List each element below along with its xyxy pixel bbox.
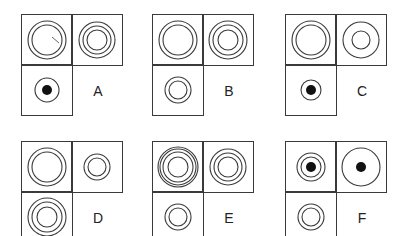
concentric-circles-icon [286, 192, 336, 236]
cell-top-left [21, 14, 73, 66]
concentric-circles-icon [153, 142, 203, 192]
cell-top-right [71, 14, 123, 66]
option-panel-c[interactable]: C [285, 14, 386, 115]
cell-top-left [21, 141, 73, 193]
cell-top-right [335, 141, 387, 193]
option-label: C [337, 83, 387, 99]
concentric-circles-icon [336, 15, 386, 65]
option-label: D [73, 210, 123, 226]
cell-bottom-left [285, 64, 337, 116]
cell-bottom-left [152, 64, 204, 116]
option-label: F [337, 210, 387, 226]
cell-bottom-left [21, 191, 73, 236]
cell-bottom-left [152, 191, 204, 236]
option-label: E [204, 210, 254, 226]
option-label: A [73, 83, 123, 99]
cell-top-left [152, 141, 204, 193]
concentric-circles-icon [72, 15, 122, 65]
cell-top-left [285, 141, 337, 193]
cell-top-right [335, 14, 387, 66]
option-panel-a[interactable]: A [21, 14, 122, 115]
option-panel-f[interactable]: F [285, 141, 386, 236]
concentric-circles-icon [203, 142, 253, 192]
option-label: B [204, 83, 254, 99]
concentric-circles-icon [22, 65, 72, 115]
concentric-circles-icon [72, 142, 122, 192]
concentric-circles-icon [153, 192, 203, 236]
cell-bottom-left [21, 64, 73, 116]
cell-bottom-left [285, 191, 337, 236]
cell-top-right [71, 141, 123, 193]
concentric-circles-icon [203, 15, 253, 65]
concentric-circles-icon [286, 65, 336, 115]
concentric-circles-icon [286, 142, 336, 192]
option-panel-b[interactable]: B [152, 14, 253, 115]
concentric-circles-icon [22, 15, 72, 65]
concentric-circles-icon [286, 15, 336, 65]
concentric-circles-icon [22, 142, 72, 192]
option-panel-e[interactable]: E [152, 141, 253, 236]
concentric-circles-icon [22, 192, 72, 236]
cell-top-left [285, 14, 337, 66]
option-panel-d[interactable]: D [21, 141, 122, 236]
cell-top-right [202, 141, 254, 193]
concentric-circles-icon [336, 142, 386, 192]
concentric-circles-icon [153, 65, 203, 115]
concentric-circles-icon [153, 15, 203, 65]
cell-top-right [202, 14, 254, 66]
cell-top-left [152, 14, 204, 66]
